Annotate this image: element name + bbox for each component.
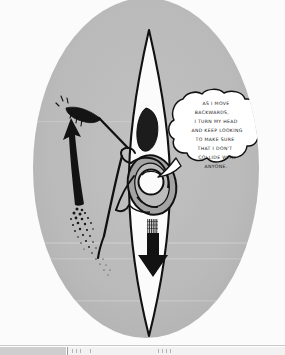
toolbar-tick — [90, 349, 91, 353]
bubble-line-8: ANYONE. — [205, 164, 228, 169]
toolbar-tick — [170, 349, 171, 353]
paddler-head — [139, 170, 164, 195]
toolbar-tick — [166, 349, 167, 353]
toolbar-tick — [80, 349, 81, 353]
scanned-page: AS I MOVE BACKWARDS, I TURN MY HEAD AND … — [0, 0, 285, 344]
bubble-line-5: TO MAKE SURE — [195, 137, 235, 142]
toolbar-tick — [76, 349, 77, 353]
bubble-line-6: THAT I DON'T — [197, 146, 233, 151]
bottom-toolbar[interactable] — [0, 345, 285, 355]
bubble-line-2: BACKWARDS, — [195, 110, 229, 115]
bubble-line-4: AND KEEP LOOKING — [191, 128, 242, 133]
screenshot-root: AS I MOVE BACKWARDS, I TURN MY HEAD AND … — [0, 0, 285, 355]
toolbar-left-segment[interactable] — [0, 347, 66, 355]
bubble-line-7: COLLIDE WITH — [198, 155, 236, 160]
toolbar-tick — [72, 349, 73, 353]
toolbar-tick — [162, 349, 163, 353]
toolbar-tick — [158, 349, 159, 353]
kayak-illustration: AS I MOVE BACKWARDS, I TURN MY HEAD AND … — [0, 0, 285, 344]
bubble-line-3: I TURN MY HEAD — [194, 119, 237, 124]
bubble-line-1: AS I MOVE — [202, 101, 229, 106]
toolbar-right-segment[interactable] — [68, 347, 285, 355]
